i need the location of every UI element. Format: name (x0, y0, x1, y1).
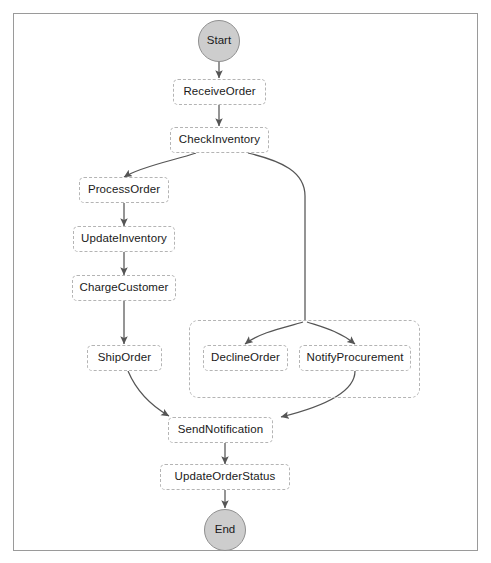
node-charge-customer-label: ChargeCustomer (80, 282, 169, 294)
node-end-label: End (215, 524, 235, 536)
node-update-inventory[interactable]: UpdateInventory (73, 226, 175, 252)
node-receive-order[interactable]: ReceiveOrder (173, 79, 266, 105)
node-charge-customer[interactable]: ChargeCustomer (72, 275, 176, 301)
diagram-canvas: Start ReceiveOrder CheckInventory Proces… (0, 0, 491, 563)
node-update-inventory-label: UpdateInventory (81, 233, 167, 245)
node-update-order-status[interactable]: UpdateOrderStatus (160, 464, 290, 490)
node-send-notification[interactable]: SendNotification (168, 417, 273, 443)
node-ship-order[interactable]: ShipOrder (87, 345, 162, 371)
node-end[interactable]: End (204, 509, 246, 551)
node-process-order-label: ProcessOrder (88, 184, 160, 196)
node-check-inventory[interactable]: CheckInventory (170, 127, 269, 153)
node-send-notification-label: SendNotification (178, 424, 263, 436)
node-notify-procurement-label: NotifyProcurement (307, 352, 404, 364)
node-start[interactable]: Start (198, 20, 240, 62)
node-notify-procurement[interactable]: NotifyProcurement (299, 345, 411, 371)
node-decline-order[interactable]: DeclineOrder (203, 345, 288, 371)
node-process-order[interactable]: ProcessOrder (79, 177, 169, 203)
node-update-order-status-label: UpdateOrderStatus (175, 471, 276, 483)
node-check-inventory-label: CheckInventory (179, 134, 260, 146)
node-receive-order-label: ReceiveOrder (183, 86, 255, 98)
node-ship-order-label: ShipOrder (98, 352, 151, 364)
node-start-label: Start (207, 35, 231, 47)
node-decline-order-label: DeclineOrder (211, 352, 280, 364)
